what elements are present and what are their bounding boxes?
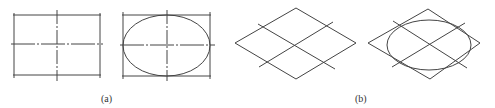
panel-a-right [120, 10, 215, 81]
panel-a-left [11, 10, 103, 81]
label-a: (a) [101, 93, 112, 104]
label-b: (b) [355, 93, 367, 104]
panel-b-left [235, 8, 356, 79]
panel-b-right [368, 9, 480, 79]
diagram-canvas [0, 0, 495, 108]
